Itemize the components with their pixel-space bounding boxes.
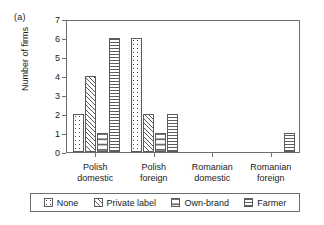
- bar: [85, 76, 96, 152]
- x-axis-tick-mark: [154, 153, 155, 157]
- x-axis-tick-mark: [95, 153, 96, 157]
- x-axis-group-label-line: domestic: [192, 173, 233, 184]
- bar: [167, 114, 178, 152]
- legend-label: None: [57, 198, 79, 208]
- y-axis-tick-label: 0: [42, 148, 60, 158]
- legend-swatch-icon: [44, 198, 53, 207]
- x-axis-group-label-line: Polish: [140, 162, 168, 173]
- x-axis-group-label: Romaniandomestic: [192, 162, 233, 184]
- x-axis-group-label-line: foreign: [140, 173, 168, 184]
- x-axis-group-label-line: Romanian: [250, 162, 291, 173]
- bar: [155, 133, 166, 152]
- x-axis-group-label-line: Polish: [77, 162, 113, 173]
- bar: [143, 114, 154, 152]
- bar: [73, 114, 84, 152]
- x-axis-tick-mark: [212, 153, 213, 157]
- legend-label: Private label: [107, 198, 157, 208]
- y-axis-tick-label: 5: [42, 53, 60, 63]
- legend-item: Own-brand: [171, 198, 229, 208]
- legend-label: Own-brand: [184, 198, 229, 208]
- x-axis-group-label-line: Romanian: [192, 162, 233, 173]
- legend-swatch-icon: [94, 198, 103, 207]
- x-axis-group-label: Romanianforeign: [250, 162, 291, 184]
- y-axis-tick-label: 1: [42, 129, 60, 139]
- legend-item: None: [44, 198, 79, 208]
- bar: [109, 38, 120, 152]
- y-axis-tick-label: 3: [42, 91, 60, 101]
- chart-legend: NonePrivate labelOwn-brandFarmer: [30, 193, 300, 212]
- y-axis-tick-label: 7: [42, 15, 60, 25]
- plot-area: [66, 20, 300, 153]
- bar: [284, 133, 295, 152]
- x-axis-group-label-line: foreign: [250, 173, 291, 184]
- y-axis-tick-label: 2: [42, 110, 60, 120]
- x-axis-group-label: Polishforeign: [140, 162, 168, 184]
- bar: [131, 38, 142, 152]
- legend-item: Private label: [94, 198, 157, 208]
- x-axis-group-label: Polishdomestic: [77, 162, 113, 184]
- legend-item: Farmer: [244, 198, 286, 208]
- legend-swatch-icon: [171, 198, 180, 207]
- x-axis-group-label-line: domestic: [77, 173, 113, 184]
- legend-label: Farmer: [257, 198, 286, 208]
- bar: [97, 133, 108, 152]
- figure-panel-a: (a) Number of firms 01234567Polishdomest…: [0, 0, 324, 225]
- y-axis-tick-label: 4: [42, 72, 60, 82]
- y-axis-title: Number of firms: [20, 9, 30, 109]
- legend-swatch-icon: [244, 198, 253, 207]
- y-axis-tick-mark: [62, 153, 66, 154]
- x-axis-tick-mark: [271, 153, 272, 157]
- y-axis-tick-label: 6: [42, 34, 60, 44]
